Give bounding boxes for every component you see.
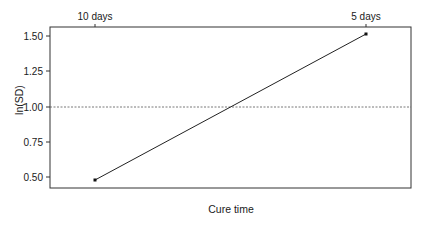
y-tick-label: 1.00 — [24, 102, 44, 113]
y-axis-label: ln(SD) — [13, 85, 25, 115]
y-tick-label: 1.25 — [24, 66, 44, 77]
x-tick-label: 5 days — [351, 11, 380, 22]
y-tick-label: 0.50 — [24, 172, 44, 183]
y-tick-label: 1.50 — [24, 31, 44, 42]
y-axis: 0.50 0.75 1.00 1.25 1.50 — [24, 31, 50, 183]
data-point — [365, 33, 368, 36]
y-tick-label: 0.75 — [24, 137, 44, 148]
x-axis-label: Cure time — [208, 203, 254, 215]
main-effects-plot: 0.50 0.75 1.00 1.25 1.50 ln(SD) 10 days … — [0, 0, 424, 227]
x-tick-label: 10 days — [77, 11, 112, 22]
x-axis-top: 10 days 5 days — [77, 11, 380, 27]
data-point — [94, 179, 97, 182]
